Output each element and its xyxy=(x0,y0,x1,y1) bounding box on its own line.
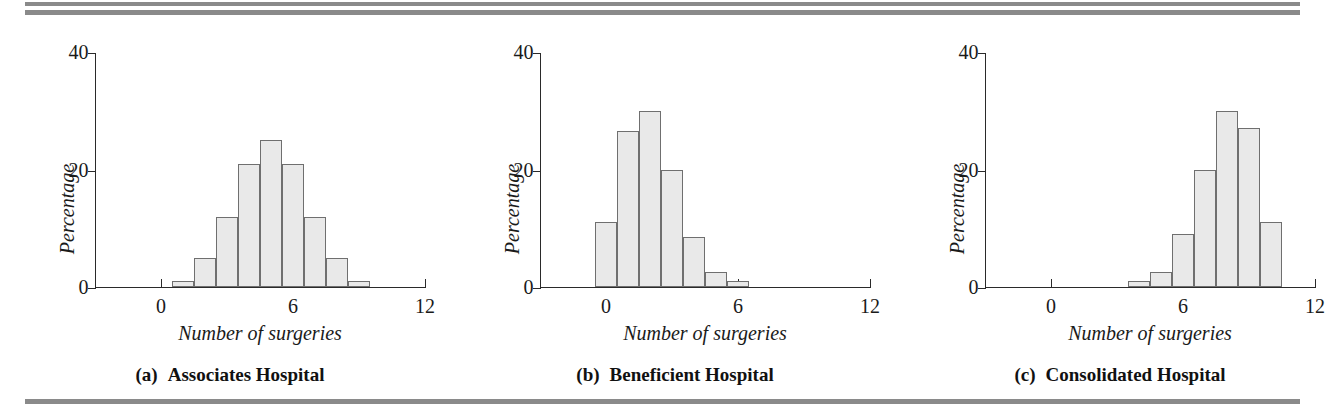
panel-caption-text-b: Beneficient Hospital xyxy=(610,364,774,385)
x-tick-label: 12 xyxy=(860,295,880,318)
histogram-bar xyxy=(1216,111,1238,287)
y-tick-mark xyxy=(978,288,986,289)
panel-caption-c: (c)Consolidated Hospital xyxy=(920,364,1320,386)
x-tick-label: 6 xyxy=(733,295,743,318)
y-tick-label: 0 xyxy=(523,276,533,299)
x-tick-mark xyxy=(1315,279,1316,288)
histogram-bar xyxy=(661,170,683,288)
histogram-bar xyxy=(282,164,304,287)
panel-tag-b: (b) xyxy=(576,364,599,385)
x-axis-line xyxy=(95,287,425,288)
panel-tag-c: (c) xyxy=(1014,364,1035,385)
x-tick-label: 0 xyxy=(601,295,611,318)
y-tick-mark xyxy=(88,171,96,172)
histogram-bar xyxy=(1150,272,1172,287)
x-axis-title: Number of surgeries xyxy=(985,322,1315,345)
histogram-bar xyxy=(304,217,326,288)
histogram-bar xyxy=(1238,128,1260,287)
histogram-bar xyxy=(595,222,617,287)
x-axis-line xyxy=(540,287,870,288)
y-tick-mark xyxy=(533,288,541,289)
y-tick-mark xyxy=(88,53,96,54)
x-tick-mark xyxy=(870,279,871,288)
y-tick-label: 0 xyxy=(78,276,88,299)
histogram-bar xyxy=(238,164,260,287)
histogram-bar xyxy=(194,258,216,287)
figure-rule-top-outer xyxy=(25,2,1300,6)
y-tick-label: 20 xyxy=(513,158,533,181)
x-tick-label: 0 xyxy=(1046,295,1056,318)
histogram-bar xyxy=(1194,170,1216,288)
histogram-bar xyxy=(216,217,238,288)
y-tick-label: 0 xyxy=(968,276,978,299)
plot-area-b: 02040 0612 xyxy=(540,53,870,288)
panel-caption-text-a: Associates Hospital xyxy=(168,364,325,385)
histogram-bar xyxy=(683,237,705,287)
histogram-bar xyxy=(617,131,639,287)
histogram-bar xyxy=(260,140,282,287)
histogram-bar xyxy=(727,281,749,287)
histogram-bar xyxy=(1172,234,1194,287)
x-axis-line xyxy=(985,287,1315,288)
plot-area-c: 02040 0612 xyxy=(985,53,1315,288)
panel-tag-a: (a) xyxy=(136,364,158,385)
x-tick-label: 12 xyxy=(1305,295,1325,318)
x-tick-mark xyxy=(161,279,162,288)
histogram-bar xyxy=(1260,222,1282,287)
panel-consolidated-hospital: Percentage 02040 0612 Number of surgerie… xyxy=(890,24,1335,394)
histogram-bar xyxy=(705,272,727,287)
histogram-bar xyxy=(639,111,661,287)
y-tick-mark xyxy=(978,171,986,172)
x-axis-title: Number of surgeries xyxy=(540,322,870,345)
x-tick-label: 12 xyxy=(415,295,435,318)
y-tick-label: 20 xyxy=(958,158,978,181)
y-tick-label: 40 xyxy=(513,41,533,64)
histogram-bar xyxy=(326,258,348,287)
x-tick-label: 6 xyxy=(1178,295,1188,318)
y-tick-label: 40 xyxy=(68,41,88,64)
y-tick-mark xyxy=(88,288,96,289)
panel-caption-b: (b)Beneficient Hospital xyxy=(475,364,875,386)
y-tick-mark xyxy=(533,53,541,54)
histogram-bar xyxy=(348,281,370,287)
y-tick-mark xyxy=(533,171,541,172)
panel-beneficient-hospital: Percentage 02040 0612 Number of surgerie… xyxy=(445,24,890,394)
panel-caption-text-c: Consolidated Hospital xyxy=(1046,364,1226,385)
x-tick-mark xyxy=(425,279,426,288)
figure-rule-top-inner xyxy=(25,10,1300,15)
histogram-bar xyxy=(1128,281,1150,287)
y-tick-mark xyxy=(978,53,986,54)
x-tick-mark xyxy=(1051,279,1052,288)
panel-caption-a: (a)Associates Hospital xyxy=(30,364,430,386)
panel-associates-hospital: Percentage 02040 0612 Number of surgerie… xyxy=(0,24,445,394)
x-axis-title: Number of surgeries xyxy=(95,322,425,345)
histogram-bar xyxy=(172,281,194,287)
plot-area-a: 02040 0612 xyxy=(95,53,425,288)
y-tick-label: 40 xyxy=(958,41,978,64)
y-tick-label: 20 xyxy=(68,158,88,181)
histogram-panels: Percentage 02040 0612 Number of surgerie… xyxy=(0,24,1335,394)
figure-rule-bottom xyxy=(25,399,1300,404)
x-tick-label: 6 xyxy=(288,295,298,318)
x-tick-label: 0 xyxy=(156,295,166,318)
